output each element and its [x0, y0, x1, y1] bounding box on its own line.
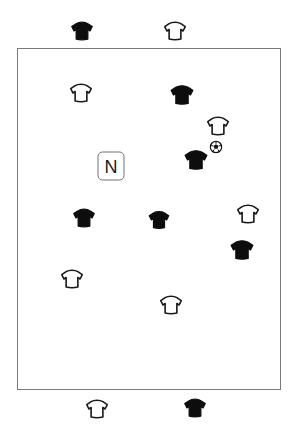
player-jersey-light[interactable]: [235, 203, 261, 225]
player-jersey-dark[interactable]: [71, 207, 97, 229]
player-jersey-dark[interactable]: [182, 148, 209, 171]
player-jersey-dark[interactable]: [69, 20, 95, 42]
player-jersey-light[interactable]: [158, 294, 184, 316]
north-marker[interactable]: N: [98, 152, 125, 181]
player-jersey-light[interactable]: [68, 82, 94, 104]
tactics-board: N: [0, 0, 300, 445]
player-jersey-light[interactable]: [84, 398, 110, 420]
player-jersey-dark[interactable]: [168, 83, 195, 106]
player-jersey-dark[interactable]: [228, 238, 255, 261]
player-jersey-light[interactable]: [59, 268, 85, 290]
player-jersey-light[interactable]: [162, 20, 188, 42]
north-marker-label: N: [105, 157, 118, 175]
soccer-ball-icon[interactable]: [210, 141, 223, 154]
player-jersey-dark[interactable]: [182, 397, 208, 419]
player-jersey-light[interactable]: [205, 115, 231, 137]
player-jersey-dark[interactable]: [147, 210, 172, 231]
